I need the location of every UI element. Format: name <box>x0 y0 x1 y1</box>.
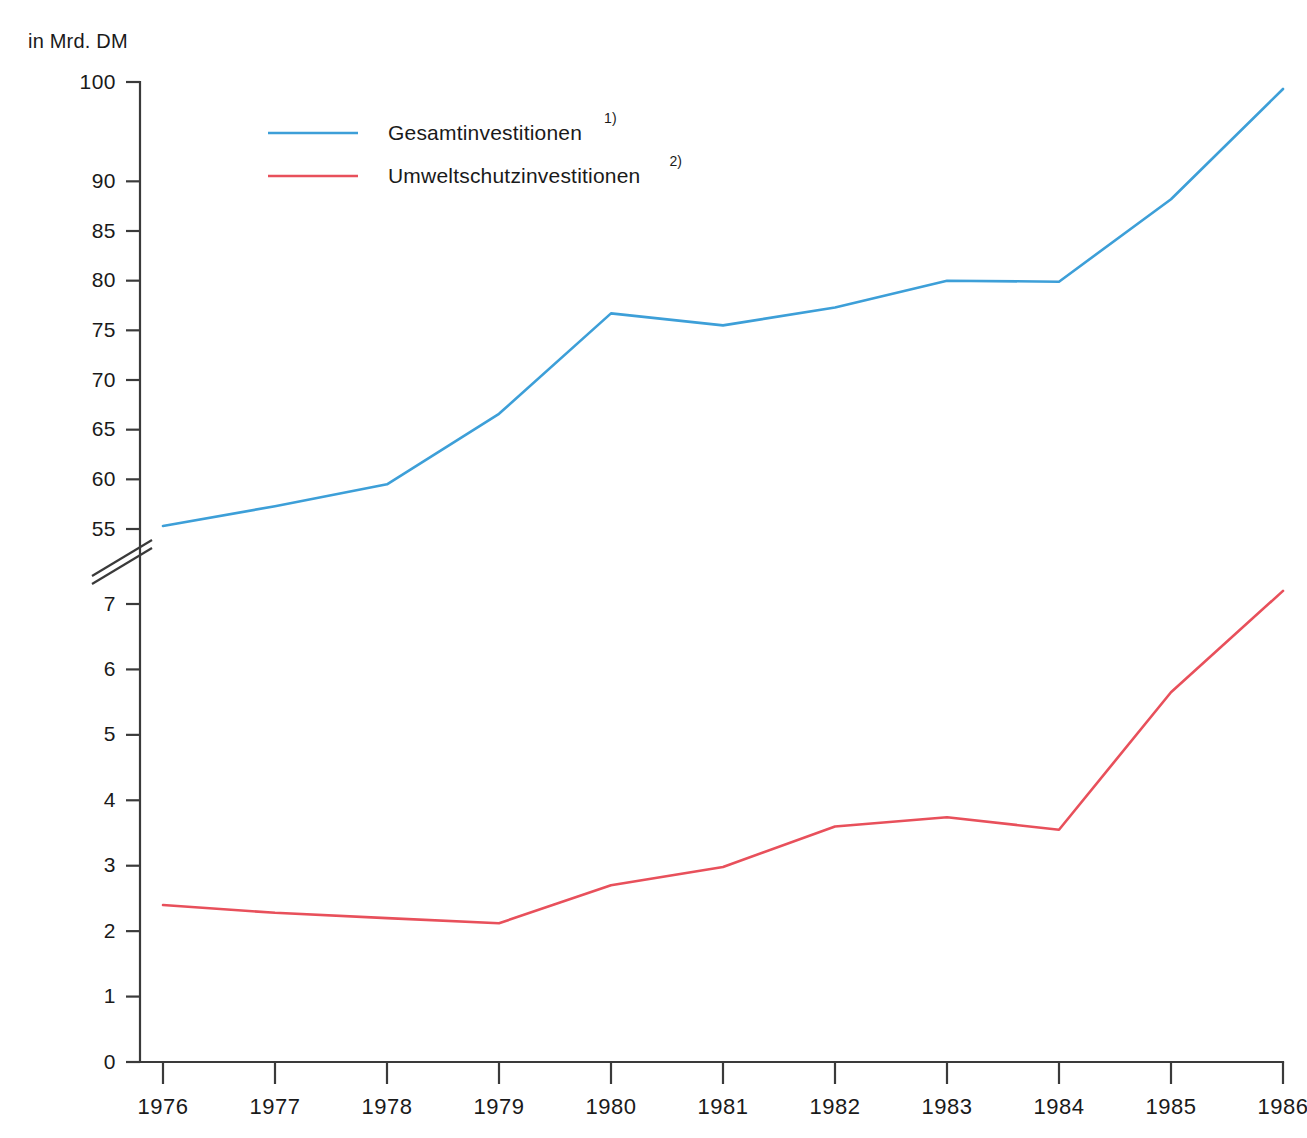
y-tick-label: 5 <box>104 722 116 745</box>
x-tick-label: 1983 <box>922 1094 973 1119</box>
series-line-gesamtinvestitionen <box>163 89 1283 526</box>
y-tick-label: 4 <box>104 788 116 811</box>
chart-page: in Mrd. DM 556065707580859010001234567 1… <box>0 0 1307 1138</box>
y-tick-label: 1 <box>104 984 116 1007</box>
y-tick-label: 60 <box>92 467 116 490</box>
y-tick-label: 85 <box>92 219 116 242</box>
legend-footnote-marker: 1) <box>604 110 616 126</box>
y-tick-label: 2 <box>104 919 116 942</box>
legend-label: Umweltschutzinvestitionen <box>388 164 640 187</box>
y-tick-label: 7 <box>104 592 116 615</box>
y-tick-label: 100 <box>79 70 116 93</box>
y-tick-label: 90 <box>92 169 116 192</box>
x-tick-label: 1978 <box>362 1094 413 1119</box>
x-tick-label: 1986 <box>1258 1094 1307 1119</box>
y-tick-label: 0 <box>104 1050 116 1073</box>
y-tick-label: 55 <box>92 517 116 540</box>
x-tick-label: 1979 <box>474 1094 525 1119</box>
legend-footnote-marker: 2) <box>670 153 682 169</box>
x-tick-label: 1977 <box>250 1094 301 1119</box>
x-axis-ticks: 1976197719781979198019811982198319841985… <box>138 1062 1307 1119</box>
series-line-umweltschutzinvestitionen <box>163 591 1283 923</box>
x-tick-label: 1982 <box>810 1094 861 1119</box>
y-tick-label: 3 <box>104 853 116 876</box>
series-lines <box>163 89 1283 923</box>
chart-legend: Gesamtinvestitionen1)Umweltschutzinvesti… <box>268 110 682 187</box>
y-tick-label: 75 <box>92 318 116 341</box>
x-tick-label: 1981 <box>698 1094 749 1119</box>
x-tick-label: 1984 <box>1034 1094 1085 1119</box>
x-tick-label: 1985 <box>1146 1094 1197 1119</box>
line-chart: 556065707580859010001234567 197619771978… <box>0 0 1307 1138</box>
axis-break-slash-upper <box>92 540 152 576</box>
axis-break-slash-lower <box>92 548 152 584</box>
y-tick-label: 80 <box>92 268 116 291</box>
legend-label: Gesamtinvestitionen <box>388 121 582 144</box>
y-tick-label: 70 <box>92 368 116 391</box>
y-tick-label: 65 <box>92 417 116 440</box>
axis-group <box>92 82 1283 1062</box>
x-tick-label: 1980 <box>586 1094 637 1119</box>
y-tick-label: 6 <box>104 657 116 680</box>
x-tick-label: 1976 <box>138 1094 189 1119</box>
y-axis-ticks: 556065707580859010001234567 <box>79 70 140 1073</box>
